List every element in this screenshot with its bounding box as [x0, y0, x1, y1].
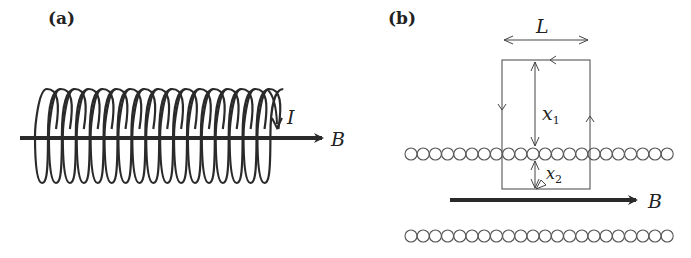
wire-cross-section [600, 148, 612, 160]
wire-cross-section [588, 230, 600, 242]
x1-label: x1 [542, 102, 560, 127]
wire-row-top [405, 148, 673, 160]
x2-label: x2 [546, 164, 562, 186]
wire-cross-section [539, 148, 551, 160]
wire-cross-section [429, 230, 441, 242]
wire-cross-section [564, 230, 576, 242]
wire-cross-section [503, 230, 515, 242]
wire-cross-section [405, 230, 417, 242]
panel-b: (b) L x1 x2 B [388, 8, 673, 242]
wire-cross-section [527, 230, 539, 242]
wire-cross-section [612, 230, 624, 242]
wire-cross-section [551, 230, 563, 242]
loop-arrow-bottom-icon [536, 180, 546, 189]
wire-cross-section [478, 148, 490, 160]
wire-cross-section [442, 230, 454, 242]
wire-cross-section [466, 148, 478, 160]
wire-cross-section [625, 148, 637, 160]
wire-cross-section [625, 230, 637, 242]
wire-cross-section [442, 148, 454, 160]
wire-cross-section [539, 230, 551, 242]
wire-cross-section [490, 230, 502, 242]
panel-a-label: (a) [48, 8, 75, 28]
wire-cross-section [661, 148, 673, 160]
wire-cross-section [429, 148, 441, 160]
wire-cross-section [515, 230, 527, 242]
wire-cross-section [527, 148, 539, 160]
wire-cross-section [576, 148, 588, 160]
field-label-b: B [647, 190, 662, 212]
wire-cross-section [564, 148, 576, 160]
wire-cross-section [417, 230, 429, 242]
length-label: L [535, 15, 549, 37]
wire-cross-section [649, 148, 661, 160]
wire-cross-section [478, 230, 490, 242]
wire-cross-section [649, 230, 661, 242]
field-label-a: B [330, 128, 345, 150]
figure: (a) B I (b) L x1 x2 B [0, 0, 691, 258]
wire-cross-section [637, 230, 649, 242]
wire-cross-section [661, 230, 673, 242]
wire-cross-section [454, 230, 466, 242]
panel-a: (a) B I [20, 8, 345, 183]
wire-cross-section [490, 148, 502, 160]
wire-cross-section [503, 148, 515, 160]
wire-row-bottom [405, 230, 673, 242]
wire-cross-section [515, 148, 527, 160]
wire-cross-section [637, 148, 649, 160]
panel-b-label: (b) [388, 8, 416, 28]
wire-cross-section [576, 230, 588, 242]
wire-cross-section [600, 230, 612, 242]
wire-cross-section [466, 230, 478, 242]
current-label: I [286, 106, 295, 128]
wire-cross-section [551, 148, 563, 160]
wire-cross-section [405, 148, 417, 160]
wire-cross-section [454, 148, 466, 160]
wire-cross-section [612, 148, 624, 160]
wire-cross-section [417, 148, 429, 160]
